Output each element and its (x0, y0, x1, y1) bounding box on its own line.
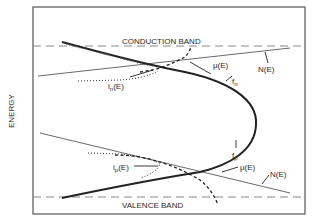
N-lower-label: N(E) (270, 170, 287, 179)
density-of-states-upper (38, 48, 290, 76)
leader-N-lower (262, 175, 269, 184)
ip-label: ip(E) (113, 163, 129, 173)
in-label: in(E) (108, 82, 124, 92)
mu-upper-label: μ(E) (213, 61, 229, 70)
conduction-band-label: CONDUCTION BAND (122, 37, 201, 46)
leader-mu-upper (190, 62, 211, 74)
band-diagram: ENERGY CONDUCTION BAND VALENCE BAND μ(E)… (0, 0, 314, 224)
energy-axis-label: ENERGY (7, 94, 16, 128)
fp-label: fp (232, 151, 238, 161)
leader-in (130, 70, 153, 77)
mu-lower-label: μ(E) (240, 163, 256, 172)
leader-N-upper (265, 52, 268, 63)
leader-mu-lower (222, 167, 238, 172)
N-upper-label: N(E) (258, 65, 275, 74)
fn-label: fn (232, 77, 238, 87)
valence-band-label: VALENCE BAND (122, 201, 183, 210)
